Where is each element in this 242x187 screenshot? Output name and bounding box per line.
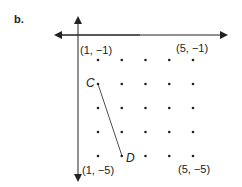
label-top-left: (1, −1) (80, 44, 112, 56)
grid-dot (192, 155, 195, 158)
grid-dot (144, 131, 147, 134)
grid-dot (192, 107, 195, 110)
grid-dot (97, 155, 100, 158)
label-bottom-right: (5, −5) (178, 163, 210, 175)
grid-dot (144, 83, 147, 86)
label-top-right: (5, −1) (176, 42, 208, 54)
grid-dot (168, 155, 171, 158)
point-c-label: C (86, 76, 95, 90)
grid-dot (144, 107, 147, 110)
grid-dot (120, 107, 123, 110)
grid-dot (168, 107, 171, 110)
label-bottom-left: (1, −5) (82, 164, 114, 176)
grid-dot (97, 59, 100, 62)
grid-dot (97, 131, 100, 134)
grid-dots (97, 59, 195, 158)
grid-dot (192, 131, 195, 134)
grid-dot (120, 59, 123, 62)
grid-dot (120, 131, 123, 134)
grid-dot (168, 83, 171, 86)
grid-dot (144, 155, 147, 158)
point-d-label: D (126, 151, 135, 165)
grid-dot (120, 83, 123, 86)
segment-cd (98, 84, 122, 156)
coordinate-diagram (0, 0, 242, 187)
grid-dot (192, 83, 195, 86)
grid-dot (168, 131, 171, 134)
grid-dot (144, 59, 147, 62)
grid-dot (97, 107, 100, 110)
grid-dot (192, 59, 195, 62)
grid-dot (168, 59, 171, 62)
